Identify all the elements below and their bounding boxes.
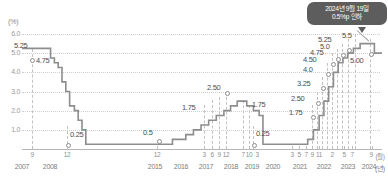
data-marker [341, 53, 346, 58]
x-year-label: 2020 [261, 163, 285, 170]
x-tick [226, 146, 227, 150]
x-axis-month-unit: (월) [371, 151, 388, 161]
x-year-label: 2008 [38, 163, 62, 170]
x-tick [243, 146, 244, 150]
x-tick [253, 146, 254, 150]
x-month-label: 3 [253, 151, 261, 158]
data-marker [347, 48, 352, 53]
callout-line-2: 0.5%p 인하 [312, 13, 382, 21]
data-label: 0.25 [256, 129, 269, 138]
x-month-label: 2 [328, 151, 336, 158]
x-year-label: 2015 [143, 163, 167, 170]
data-label: 0.5 [143, 128, 153, 137]
data-marker [326, 72, 331, 77]
data-label: 2.50 [291, 94, 304, 103]
annotation-callout: 2024년 9월 19일 0.5%p 인하 [307, 2, 387, 25]
x-month-label: 9 [27, 151, 37, 158]
x-tick [306, 146, 307, 150]
data-marker [316, 101, 321, 106]
data-marker [311, 115, 316, 120]
data-label: 1.75 [289, 108, 302, 117]
data-label: 5.5 [342, 31, 352, 40]
x-month-label: 12 [62, 151, 72, 158]
x-axis-year-unit: (년) [371, 163, 388, 173]
data-marker [321, 86, 326, 91]
data-label: 5.25 [318, 35, 331, 44]
data-label: 0.25 [70, 130, 83, 139]
data-marker [30, 58, 35, 63]
data-label: 2.50 [207, 83, 220, 92]
data-label: 3.25 [297, 79, 310, 88]
x-month-label: 12 [221, 151, 231, 158]
x-month-label: 7 [348, 151, 356, 158]
x-tick [157, 146, 158, 150]
data-label: 4.0 [303, 65, 313, 74]
x-year-label: 2007 [10, 163, 34, 170]
callout-line-1: 2024년 9월 19일 [312, 5, 382, 13]
data-label: 4.75 [36, 56, 49, 65]
data-marker [336, 57, 341, 62]
x-month-label: 5 [340, 151, 348, 158]
x-month-label: 11 [314, 151, 324, 158]
data-marker [369, 52, 374, 57]
x-month-label: 12 [152, 151, 162, 158]
x-tick [312, 146, 313, 150]
x-month-label: 3 [200, 151, 208, 158]
x-tick [299, 146, 300, 150]
x-tick [332, 146, 333, 150]
x-tick [32, 146, 33, 150]
x-tick [352, 146, 353, 150]
data-label: 1.75 [252, 100, 265, 109]
data-label: 1.75 [182, 103, 195, 112]
x-year-label: 2022 [312, 163, 336, 170]
x-year-label: 2016 [169, 163, 193, 170]
data-marker [331, 62, 336, 67]
x-year-label: 2021 [288, 163, 312, 170]
x-tick [372, 146, 373, 150]
x-tick [344, 146, 345, 150]
interest-rate-chart: (%) 6.0 5.0 4.0 3.0 2.0 1.0 [0, 0, 388, 180]
x-tick [212, 146, 213, 150]
data-marker [157, 139, 162, 144]
data-marker [225, 91, 230, 96]
x-year-label: 2017 [194, 163, 218, 170]
data-label: 5.00 [350, 56, 363, 65]
data-label: 5.25 [14, 41, 27, 50]
x-tick [67, 146, 68, 150]
x-tick [219, 146, 220, 150]
x-tick [204, 146, 205, 150]
x-tick [249, 146, 250, 150]
x-tick [292, 146, 293, 150]
x-tick [319, 146, 320, 150]
